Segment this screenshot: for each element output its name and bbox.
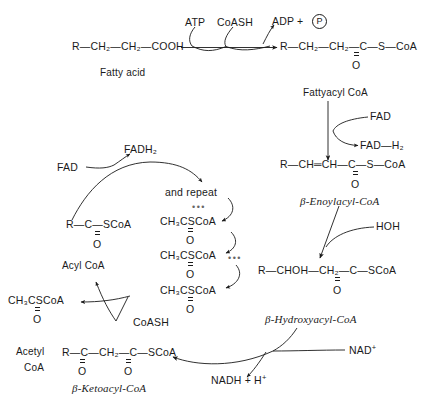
hoh-label: HOH [376, 221, 400, 232]
repeat-unit-2-ellipsis: ••• [228, 253, 242, 263]
coash-input-arrow-bottom [116, 297, 128, 321]
atp-label: ATP [185, 17, 205, 28]
enoyl-carbonyl-double-bond [353, 171, 358, 175]
acyl-coa-carbonyl-oxygen: O [93, 239, 101, 250]
nad-label: NAD+ [349, 345, 376, 356]
atp-arc [192, 46, 226, 51]
fattyacyl-coa-label: Fattyacyl CoA [303, 88, 368, 98]
acyl-coa-carbonyl-double-bond [95, 231, 100, 235]
atp-input-arrow [190, 27, 195, 46]
repeat-unit-2-double-bond [188, 262, 193, 266]
repeat-unit-1-double-bond [188, 228, 193, 232]
fad-input-arrow-right [333, 117, 368, 131]
and-repeat-label: and repeat [165, 187, 217, 198]
acyl-carbonyl-oxygen: O [352, 60, 360, 71]
nadh-label: NADH + H+ [211, 375, 267, 386]
acetyl-coa-label-line2: CoA [24, 363, 44, 373]
beta-oxidation-pathway-diagram: R—CH₂—CH₂—COOH Fatty acid ATP CoASH ADP … [0, 0, 427, 401]
acyl-carbonyl-double-bond [354, 52, 359, 56]
coash-arc [226, 46, 270, 50]
hydroxyacyl-coa-label: β-Hydroxyacyl-CoA [265, 314, 357, 325]
repeat-unit-3-oxygen: O [186, 304, 194, 315]
fattyacyl-coa-formula: R—CH₂—CH₂—C—S—CoA [280, 41, 417, 52]
repeat-unit-1-formula: CH₃CSCoA [160, 216, 216, 227]
ketoacyl-oxygen-right: O [124, 366, 132, 377]
coash-label: CoASH [217, 17, 253, 28]
acetyl-coa-double-bond [35, 307, 40, 311]
nadh-charge: + [262, 373, 267, 382]
enoyl-carbonyl-oxygen: O [351, 179, 359, 190]
hydroxyacyl-coa-formula: R—CHOH—CH₂—C—SCoA [258, 265, 396, 276]
nad-charge: + [372, 343, 377, 352]
nad-input-arrow [273, 350, 345, 351]
repeat-arrow-1 [222, 198, 233, 221]
fadh2-output-arrow-left [114, 154, 130, 165]
hydroxy-carbonyl-oxygen: O [333, 285, 341, 296]
adp-output-arrow [263, 25, 274, 44]
repeat-unit-3-double-bond [188, 297, 193, 301]
acetyl-coa-oxygen: O [33, 314, 41, 325]
hydroxy-carbonyl-double-bond [335, 277, 340, 281]
enoylacyl-coa-formula: R—CH═CH—C—S—CoA [280, 159, 405, 170]
repeat-ellipsis-top: ••• [192, 202, 206, 212]
acetyl-coa-label-line1: Acetyl [16, 347, 44, 357]
acetyl-coa-formula: CH₃CSCoA [8, 295, 64, 306]
repeat-unit-3-formula: CH₃CSCoA [160, 285, 216, 296]
ketoacyl-double-bond-left [80, 359, 85, 363]
ketoacyl-oxygen-left: O [78, 366, 86, 377]
hoh-input-arrow [326, 227, 374, 247]
nad-text: NAD [349, 344, 372, 356]
coash-label-bottom: CoASH [133, 317, 169, 328]
repeat-arrow-2 [226, 232, 236, 253]
adp-label: ADP + [272, 16, 303, 27]
enoylacyl-coa-label: β-Enoylacyl-CoA [300, 196, 379, 207]
fatty-acid-label: Fatty acid [100, 68, 145, 78]
ketoacyl-coa-formula: R—C—CH₂—C—SCoA [62, 347, 176, 358]
ketoacyl-coa-label: β-Ketoacyl-CoA [72, 383, 146, 394]
hydroxy-to-keto-arrow [173, 351, 273, 364]
acyl-coa-label: Acyl CoA [62, 261, 105, 271]
repeat-unit-2-oxygen: O [186, 269, 194, 280]
ketoacyl-double-bond-right [126, 359, 131, 363]
phosphate-circle-icon: P [312, 14, 327, 29]
fad-label-left: FAD [57, 162, 78, 173]
hydroxy-to-keto-arrow-start [273, 328, 297, 351]
fad-input-arrow-left [86, 165, 114, 168]
nadh-text: NADH + H [211, 374, 262, 386]
fadh2-output-arrow-right [333, 131, 358, 146]
fadh2-label-right: FAD—H₂ [360, 140, 404, 151]
ketoacyl-to-acyl-arrow [96, 282, 116, 321]
fadh2-label-left: FADH₂ [124, 144, 157, 155]
repeat-unit-1-oxygen: O [186, 235, 194, 246]
fatty-acid-formula: R—CH₂—CH₂—COOH [72, 41, 184, 52]
repeat-unit-2-formula: CH₃CSCoA [160, 250, 216, 261]
enoyl-to-hydroxy-arrow [320, 206, 339, 258]
repeat-arrow-3 [226, 265, 240, 288]
fad-label-right: FAD [370, 111, 391, 122]
acyl-coa-formula: R—C—SCoA [66, 219, 131, 230]
coash-input-arrow [225, 27, 233, 47]
ketoacyl-to-acetyl-arrow [81, 296, 130, 302]
